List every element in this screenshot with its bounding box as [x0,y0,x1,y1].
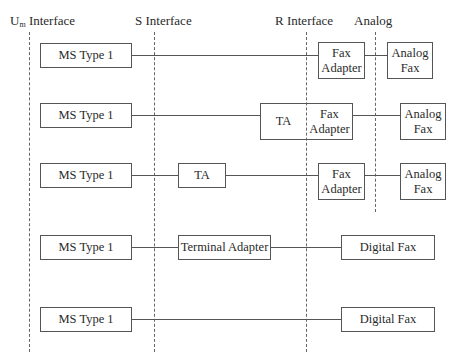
analog-interface-label: Analog [354,14,392,28]
um-letter: U [10,13,19,28]
s-interface-line [154,32,155,352]
r-interface-line [306,32,307,352]
row3-fax-adapter: Fax Adapter [318,163,365,200]
row2-ms-type1: MS Type 1 [40,103,132,128]
um-suffix: Interface [26,13,75,28]
row2-fax-adapter: Fax Adapter [307,103,353,140]
row2-analog-fax: Analog Fax [400,103,446,140]
um-interface-label: Um Interface [10,14,75,32]
row3-connector-ta-fax [225,175,319,176]
row2-connector-analog [352,115,400,116]
row5-connector [131,319,342,320]
row4-connector-ms-ta [131,247,179,248]
s-interface-label: S Interface [135,14,192,28]
analog-interface-line [375,32,376,212]
row3-connector-ms-ta [131,175,179,176]
row4-ms-type1: MS Type 1 [40,235,132,260]
row1-connector [131,55,319,56]
row1-connector-analog [364,55,388,56]
row1-fax-adapter: Fax Adapter [318,42,365,79]
um-interface-line [29,32,30,352]
row5-ms-type1: MS Type 1 [40,307,132,332]
row4-terminal-adapter: Terminal Adapter [178,235,271,260]
r-interface-label: R Interface [275,14,333,28]
row3-connector-analog [364,175,400,176]
row4-connector-ta-fax [270,247,342,248]
row3-analog-fax: Analog Fax [400,163,446,200]
row1-analog-fax: Analog Fax [387,42,433,79]
row2-connector [131,115,261,116]
row3-ta: TA [178,163,226,188]
row5-digital-fax: Digital Fax [341,307,435,332]
row1-ms-type1: MS Type 1 [40,43,132,68]
row4-digital-fax: Digital Fax [341,235,435,260]
row3-ms-type1: MS Type 1 [40,163,132,188]
